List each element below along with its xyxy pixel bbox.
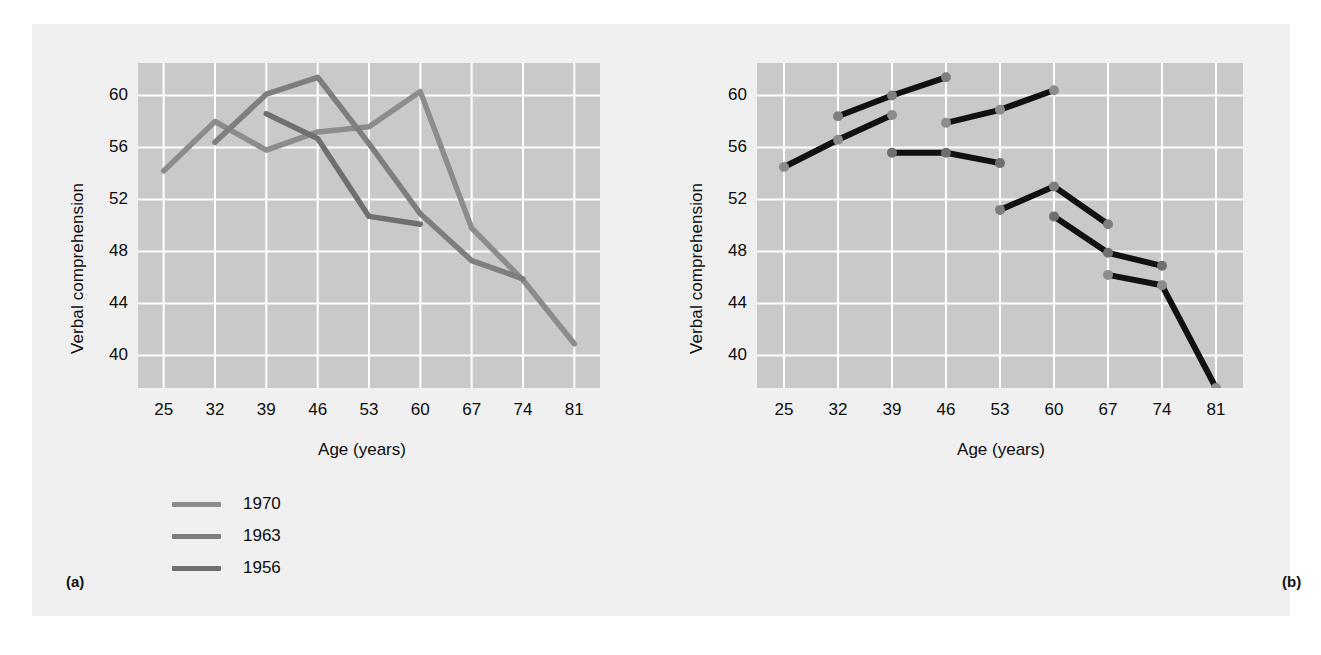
x-axis-label-a: Age (years) <box>232 440 492 460</box>
x-tick-81: 81 <box>1196 400 1236 420</box>
y-tick-40: 40 <box>94 345 128 365</box>
chart-svg-a <box>138 63 600 388</box>
panel-a-legend-item-1970[interactable]: 1970 <box>172 488 281 520</box>
x-tick-53: 53 <box>349 400 389 420</box>
legend-line-swatch-1956 <box>172 566 221 571</box>
y-tick-56: 56 <box>94 137 128 157</box>
y-tick-44: 44 <box>713 293 747 313</box>
plot-area-a <box>138 63 600 388</box>
legend-line-swatch-1970 <box>172 502 221 507</box>
y-tick-56: 56 <box>713 137 747 157</box>
panel-a-legend-item-1963[interactable]: 1963 <box>172 520 281 552</box>
plot-area-b <box>757 63 1243 388</box>
panel-a-legend-item-1956[interactable]: 1956 <box>172 552 281 584</box>
y-axis-label-a: Verbal comprehension <box>68 183 88 354</box>
legend-a: 197019631956 <box>172 488 281 584</box>
y-tick-48: 48 <box>94 241 128 261</box>
y-tick-60: 60 <box>713 85 747 105</box>
x-tick-39: 39 <box>872 400 912 420</box>
x-tick-67: 67 <box>452 400 492 420</box>
legend-label: 1963 <box>243 526 281 546</box>
y-axis-label-b: Verbal comprehension <box>687 183 707 354</box>
x-tick-53: 53 <box>980 400 1020 420</box>
legend-label: 1970 <box>243 494 281 514</box>
panel-tag-a: (a) <box>66 573 84 590</box>
chart-svg-b <box>757 63 1243 388</box>
figure-container: Verbal comprehension 404448525660 253239… <box>32 24 1290 616</box>
x-tick-46: 46 <box>926 400 966 420</box>
x-tick-81: 81 <box>554 400 594 420</box>
x-tick-60: 60 <box>1034 400 1074 420</box>
panel-a: Verbal comprehension 404448525660 253239… <box>32 24 661 616</box>
x-tick-74: 74 <box>1142 400 1182 420</box>
panel-b: Verbal comprehension 404448525660 253239… <box>661 24 1290 616</box>
x-tick-25: 25 <box>144 400 184 420</box>
y-tick-52: 52 <box>713 189 747 209</box>
legend-line-swatch-1963 <box>172 534 221 539</box>
x-tick-39: 39 <box>246 400 286 420</box>
x-axis-label-b: Age (years) <box>871 440 1131 460</box>
y-tick-40: 40 <box>713 345 747 365</box>
x-tick-74: 74 <box>503 400 543 420</box>
x-tick-32: 32 <box>818 400 858 420</box>
y-tick-60: 60 <box>94 85 128 105</box>
x-tick-46: 46 <box>298 400 338 420</box>
y-tick-52: 52 <box>94 189 128 209</box>
y-tick-48: 48 <box>713 241 747 261</box>
x-tick-32: 32 <box>195 400 235 420</box>
y-tick-44: 44 <box>94 293 128 313</box>
x-tick-67: 67 <box>1088 400 1128 420</box>
legend-label: 1956 <box>243 558 281 578</box>
panel-tag-b: (b) <box>1282 573 1301 590</box>
x-tick-25: 25 <box>764 400 804 420</box>
x-tick-60: 60 <box>400 400 440 420</box>
